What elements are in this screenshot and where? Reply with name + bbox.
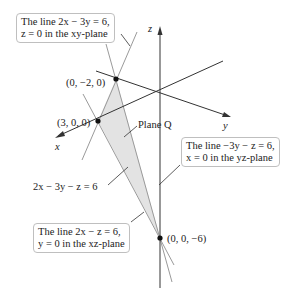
callout-xz-line1: The line 2x − z = 6, <box>38 226 125 238</box>
plane-q-label: Plane Q <box>138 119 172 131</box>
point-label-0-neg2-0: (0, −2, 0) <box>66 77 105 89</box>
x-axis-label: x <box>55 141 60 153</box>
callout-xy-line1: The line 2x − 3y = 6, <box>21 16 110 28</box>
plane-equation-label: 2x − 3y − z = 6 <box>33 181 97 193</box>
callout-yz-line1: The line −3y − z = 6, <box>186 140 275 152</box>
point-0-neg2-0 <box>113 76 118 81</box>
point-3-0-0 <box>95 118 100 123</box>
point-0-0-neg6 <box>157 235 162 240</box>
point-label-0-0-neg6: (0, 0, −6) <box>167 233 206 245</box>
callout-xy-trace: The line 2x − 3y = 6, z = 0 in the xy-pl… <box>16 13 115 43</box>
leader-plane-eq <box>108 167 128 185</box>
callout-xz-trace: The line 2x − z = 6, y = 0 in the xz-pla… <box>33 223 130 253</box>
y-axis-arrowhead-icon <box>222 112 231 117</box>
leader-xy-callout <box>121 34 130 46</box>
point-label-3-0-0: (3, 0, 0) <box>57 117 90 129</box>
callout-xz-line2: y = 0 in the xz-plane <box>38 238 125 250</box>
callout-xy-line2: z = 0 in the xy-plane <box>21 28 110 40</box>
y-axis-label: y <box>223 120 228 132</box>
leader-xz-callout <box>131 212 144 222</box>
x-axis-arrowhead-icon <box>55 131 65 138</box>
leader-yz-callout <box>159 165 180 185</box>
callout-yz-trace: The line −3y − z = 6, x = 0 in the yz-pl… <box>181 137 280 167</box>
callout-yz-line2: x = 0 in the yz-plane <box>186 152 275 164</box>
z-axis-label: z <box>148 23 152 35</box>
plane-q-region <box>98 79 160 238</box>
z-axis-arrowhead-icon <box>158 26 163 35</box>
